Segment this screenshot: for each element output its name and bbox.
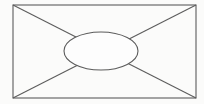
diagram-svg — [0, 0, 204, 104]
figure-canvas — [0, 0, 204, 104]
center-ellipse-shape — [64, 32, 138, 70]
